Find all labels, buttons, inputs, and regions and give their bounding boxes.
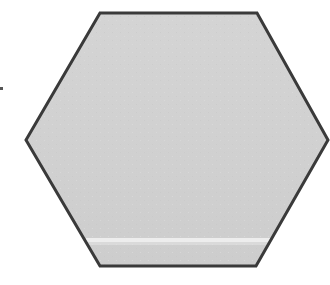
hexagon-diagram <box>0 0 330 285</box>
diagram-canvas <box>0 0 330 285</box>
side-mark <box>0 87 3 90</box>
highlight-streak <box>86 238 270 242</box>
hexagon-texture <box>26 13 328 266</box>
